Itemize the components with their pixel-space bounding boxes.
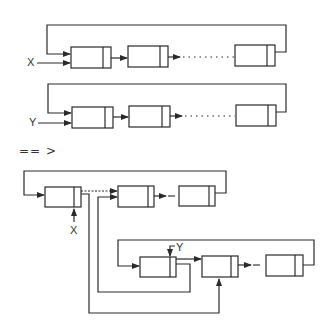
result-node-f	[266, 255, 303, 276]
list-x-node-n	[235, 45, 275, 66]
pointer-y-label: Y	[29, 116, 37, 128]
list-y: Y	[29, 84, 286, 128]
transform-symbol: == >	[19, 144, 57, 158]
result-node-d	[140, 257, 176, 277]
list-y-node-n	[236, 105, 276, 126]
result-list-main: X	[24, 171, 226, 236]
result-node-b	[118, 186, 154, 207]
pointer-x-label: X	[27, 56, 35, 68]
list-y-node-2	[129, 106, 170, 127]
rewired-links	[81, 194, 219, 313]
list-y-node-1	[72, 107, 113, 128]
result-node-c	[179, 186, 215, 206]
list-x: X	[27, 25, 286, 68]
list-x-node-2	[128, 46, 168, 67]
result-pointer-x-label: X	[70, 224, 78, 236]
result-pointer-y-label: Y	[176, 241, 184, 253]
result-node-a	[45, 187, 81, 207]
result-list-inner: Y	[118, 240, 314, 277]
list-x-node-1	[71, 47, 111, 68]
result-node-e	[202, 256, 238, 277]
linked-list-diagram: X Y == > X	[0, 0, 335, 334]
